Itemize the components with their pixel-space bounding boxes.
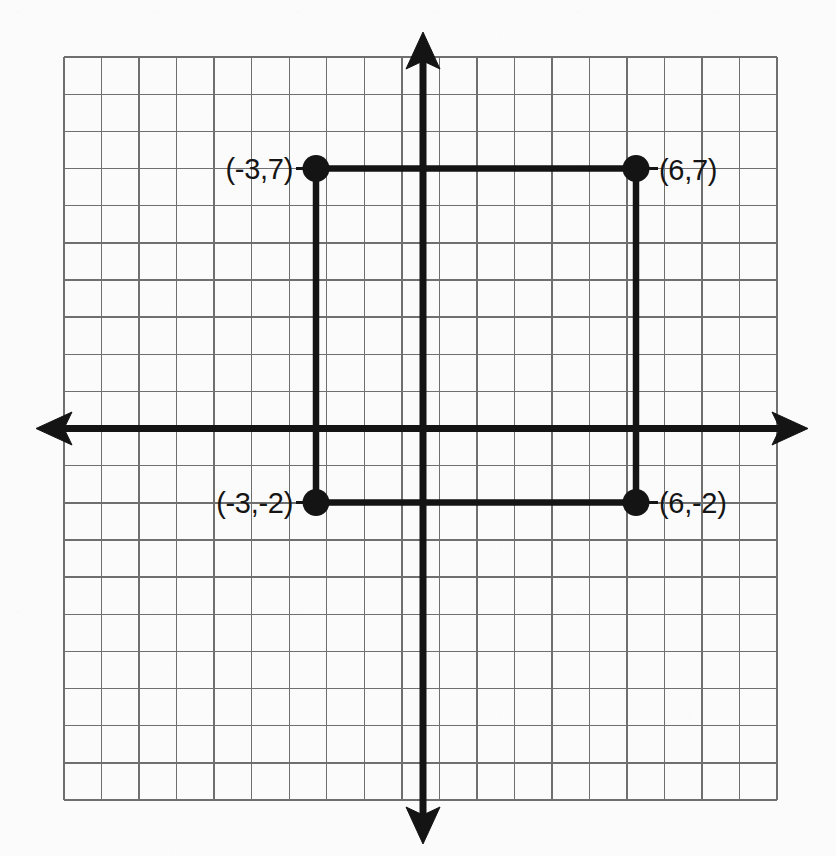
- figure-canvas: (-3,7) (6,7) (-3,-2) (6,-2): [0, 0, 836, 856]
- point-label-bottom-right: (6,-2): [659, 487, 727, 519]
- coordinate-plane-figure: (-3,7) (6,7) (-3,-2) (6,-2): [0, 0, 836, 856]
- point-marker-bottom-right[interactable]: [623, 489, 650, 516]
- point-marker-top-right[interactable]: [623, 155, 650, 182]
- point-marker-bottom-left[interactable]: [303, 489, 330, 516]
- point-label-bottom-left: (-3,-2): [216, 487, 293, 519]
- point-label-top-right: (6,7): [659, 154, 717, 186]
- point-label-top-left: (-3,7): [226, 153, 294, 185]
- point-marker-top-left[interactable]: [303, 155, 330, 182]
